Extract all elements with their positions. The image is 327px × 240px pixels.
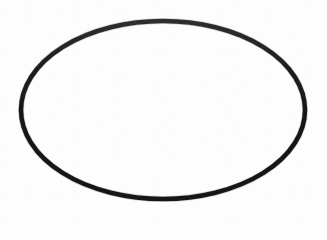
ellipse-outline [21,21,305,199]
drawing-canvas [0,0,327,240]
ellipse-drawing-svg [0,0,327,240]
